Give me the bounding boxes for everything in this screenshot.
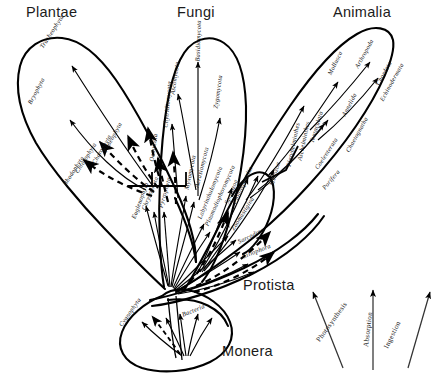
plantae-lineage-arrows <box>70 66 152 190</box>
kingdom-label-plantae: Plantae <box>26 4 77 20</box>
arrow-bacteria-4 <box>190 318 212 356</box>
kingdom-label-protista: Protista <box>243 277 295 293</box>
plantae-outline <box>18 38 196 289</box>
monera-lineage-arrows <box>142 314 212 356</box>
phylum-label-basidiomycota: Basidiomycota <box>194 20 202 61</box>
kingdom-label-animalia: Animalia <box>333 4 391 20</box>
kingdom-label-fungi: Fungi <box>177 4 215 20</box>
legend-arrow-ingestion <box>408 292 430 368</box>
arrow-chytridiomycota <box>173 152 176 204</box>
kingdom-label-monera: Monera <box>222 343 273 359</box>
whittaker-five-kingdom-diagram: Plantae Fungi Animalia Protista Monera T… <box>0 0 441 388</box>
